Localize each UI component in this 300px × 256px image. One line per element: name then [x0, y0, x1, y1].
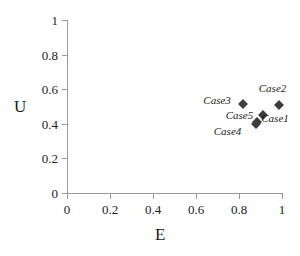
y-axis-tick-label: 0 — [14, 187, 58, 200]
y-axis-tick — [62, 20, 67, 21]
y-axis-tick-label: 0.4 — [14, 118, 58, 131]
y-axis-tick-label: 0.2 — [14, 152, 58, 165]
data-point-label: Case4 — [214, 126, 242, 137]
x-axis-line — [67, 193, 283, 194]
x-axis-tick-label: 0.2 — [90, 203, 130, 216]
x-axis-tick — [67, 194, 68, 199]
x-axis-tick — [196, 194, 197, 199]
data-point-label: Case3 — [203, 95, 231, 106]
y-axis-tick-label: 0.6 — [14, 83, 58, 96]
scatter-chart-figure: 00.20.40.60.81 00.20.40.60.81 Case1Case2… — [0, 0, 300, 256]
y-axis-tick-label: 1 — [14, 14, 58, 27]
x-axis-tick-label: 0.8 — [219, 203, 259, 216]
y-axis-tick — [62, 124, 67, 125]
data-point-label: Case5 — [226, 110, 254, 121]
y-axis-tick-label: 0.8 — [14, 49, 58, 62]
x-axis-tick — [153, 194, 154, 199]
x-axis-tick-label: 0.6 — [176, 203, 216, 216]
y-axis-tick — [62, 89, 67, 90]
x-axis-tick — [239, 194, 240, 199]
data-point-label: Case2 — [259, 83, 287, 94]
y-axis-tick — [62, 158, 67, 159]
x-axis-tick-label: 0.4 — [133, 203, 173, 216]
y-axis-title: U — [14, 98, 26, 115]
x-axis-tick — [282, 194, 283, 199]
plot-area — [67, 20, 282, 193]
y-axis-tick — [62, 55, 67, 56]
x-axis-tick-label: 0 — [47, 203, 87, 216]
data-point-label: Case1 — [261, 113, 289, 124]
x-axis-title: E — [155, 226, 165, 243]
x-axis-tick — [110, 194, 111, 199]
y-axis-line — [67, 20, 68, 194]
x-axis-tick-label: 1 — [262, 203, 300, 216]
